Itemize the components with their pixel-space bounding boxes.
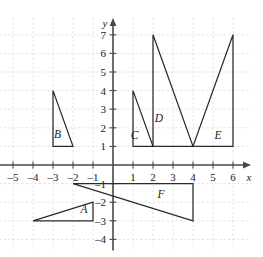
y-tick-label: 2 (101, 122, 107, 134)
shape-label-f: F (156, 188, 165, 200)
y-tick-label: 6 (101, 47, 107, 59)
x-tick-label: 6 (230, 171, 236, 183)
shape-label-d: D (154, 112, 164, 124)
coordinate-plane-figure: –5–4–3–2–11234567654321–1–2–3–4 ABCDEF x… (0, 0, 263, 257)
y-axis-name-label: y (102, 17, 108, 29)
x-tick-label: 1 (130, 171, 136, 183)
y-axis-arrowhead (110, 18, 117, 26)
x-tick-label: 3 (170, 171, 176, 183)
shape-label-b: B (54, 128, 61, 140)
x-tick-label: 4 (190, 171, 196, 183)
coordinate-plot: –5–4–3–2–11234567654321–1–2–3–4 ABCDEF x… (0, 0, 263, 257)
y-tick-label: –2 (94, 196, 106, 208)
y-tick-label: 5 (101, 66, 107, 78)
x-tick-label: –3 (47, 171, 60, 183)
gridlines (0, 18, 251, 251)
shape-label-a: A (79, 203, 88, 215)
tick-labels: –5–4–3–2–11234567654321–1–2–3–4 (7, 29, 237, 246)
x-tick-label: –5 (7, 171, 20, 183)
shape-label-e: E (213, 129, 221, 141)
shape-label-c: C (131, 129, 139, 141)
y-tick-label: –3 (94, 215, 107, 227)
x-axis-name-label: x (246, 171, 252, 183)
y-tick-label: –4 (94, 233, 107, 245)
y-tick-label: 7 (101, 29, 107, 41)
x-axis-arrowhead (243, 162, 251, 169)
x-tick-label: –4 (27, 171, 40, 183)
x-tick-label: 2 (150, 171, 156, 183)
x-tick-label: 5 (210, 171, 216, 183)
x-tick-label: –2 (67, 171, 79, 183)
y-tick-label: 1 (101, 140, 107, 152)
tick-marks (13, 35, 233, 240)
y-tick-label: 4 (101, 85, 107, 97)
y-tick-label: 3 (101, 103, 107, 115)
